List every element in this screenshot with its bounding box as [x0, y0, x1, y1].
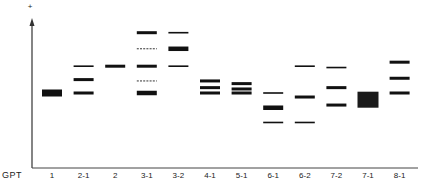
- band: [295, 122, 315, 124]
- band: [295, 65, 315, 67]
- lane-2-1: 2-1: [74, 65, 94, 180]
- lane-label: 4-1: [204, 171, 216, 180]
- band: [326, 67, 346, 69]
- lane-label: 7-2: [331, 171, 343, 180]
- band: [168, 32, 188, 34]
- band: [105, 65, 125, 68]
- band: [168, 65, 188, 67]
- band: [200, 79, 220, 82]
- lane-1: 1: [42, 90, 62, 181]
- band: [326, 86, 346, 89]
- band: [232, 87, 252, 90]
- lane-label: 2: [113, 171, 118, 180]
- band: [74, 92, 94, 95]
- lane-label: 7-1: [362, 171, 374, 180]
- lane-3-2: 3-2: [168, 32, 188, 180]
- band: [390, 92, 410, 95]
- band: [137, 65, 157, 68]
- band: [74, 65, 94, 67]
- lane-3-1: 3-1: [137, 31, 157, 180]
- arrow-up-icon: [30, 18, 35, 26]
- band: [263, 92, 283, 94]
- band: [168, 47, 188, 52]
- lane-label: 5-1: [236, 171, 248, 180]
- lane-2: 2: [105, 65, 125, 180]
- lane-7-2: 7-2: [326, 67, 346, 180]
- band: [200, 86, 220, 89]
- band: [390, 77, 410, 80]
- polarity-marker: +: [28, 2, 33, 11]
- lane-6-2: 6-2: [295, 65, 315, 180]
- band: [200, 92, 220, 95]
- lane-label: 3-2: [173, 171, 185, 180]
- lane-5-1: 5-1: [232, 82, 252, 180]
- lane-6-1: 6-1: [263, 92, 283, 180]
- lane-label: 8-1: [394, 171, 406, 180]
- band: [263, 122, 283, 124]
- band: [326, 104, 346, 107]
- gel-diagram: + GPT 12-123-13-24-15-16-16-27-27-18-1: [0, 0, 430, 187]
- band: [137, 31, 157, 34]
- lane-label: 1: [50, 171, 55, 180]
- lanes: 12-123-13-24-15-16-16-27-27-18-1: [42, 31, 410, 180]
- band: [42, 90, 62, 97]
- band: [295, 96, 315, 99]
- band: [137, 91, 157, 96]
- band: [74, 78, 94, 81]
- lane-label: 6-2: [299, 171, 311, 180]
- lane-4-1: 4-1: [200, 79, 220, 180]
- band: [232, 92, 252, 95]
- lane-7-1: 7-1: [358, 92, 379, 180]
- band: [390, 61, 410, 64]
- band: [263, 105, 283, 110]
- lane-8-1: 8-1: [390, 61, 410, 180]
- lane-label: 6-1: [267, 171, 279, 180]
- band: [232, 82, 252, 85]
- lane-label: 2-1: [78, 171, 90, 180]
- band: [358, 92, 379, 108]
- row-label: GPT: [2, 170, 22, 180]
- lane-label: 3-1: [141, 171, 153, 180]
